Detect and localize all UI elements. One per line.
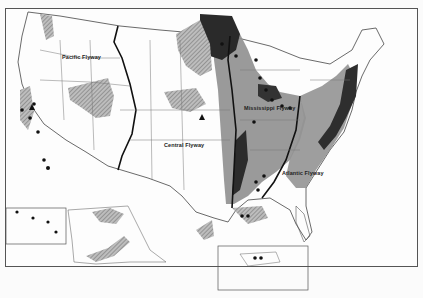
hatched-texas <box>196 220 214 240</box>
hatched-alaska-coast <box>86 236 130 262</box>
mississippi-flyway-label: Mississippi Flyway <box>244 105 295 111</box>
flyway-map <box>0 0 423 298</box>
pacific-flyway-label: Pacific Flyway <box>62 54 101 60</box>
alaska-hawaii-inset <box>6 208 66 244</box>
hatched-alaska <box>92 208 124 224</box>
hatched-gulf <box>232 206 268 224</box>
central-flyway-label: Central Flyway <box>164 142 204 148</box>
atlantic-flyway-label: Atlantic Flyway <box>282 170 324 176</box>
